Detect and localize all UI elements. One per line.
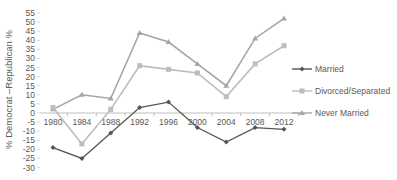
x-tick-label: 1992: [130, 117, 149, 127]
series-lines: [50, 15, 287, 161]
square-marker: [224, 94, 229, 99]
y-tick-label: -30: [23, 163, 36, 173]
square-marker: [166, 67, 171, 72]
x-tick-label: 2004: [217, 117, 236, 127]
square-marker: [137, 63, 142, 68]
square-marker: [300, 89, 305, 94]
diamond-marker: [224, 140, 229, 145]
x-tick-label: 1988: [101, 117, 120, 127]
series-never-married: [50, 15, 287, 111]
legend-label: Divorced/Separated: [315, 86, 390, 96]
triangle-marker: [281, 15, 287, 20]
triangle-marker: [137, 30, 143, 35]
x-tick-label: 1980: [44, 117, 63, 127]
chart-legend: MarriedDivorced/SeparatedNever Married: [291, 58, 390, 124]
series-married: [51, 100, 287, 161]
square-marker: [282, 43, 287, 48]
square-marker: [79, 141, 84, 146]
square-marker: [51, 105, 56, 110]
square-legend-icon: [291, 86, 313, 96]
diamond-marker: [51, 145, 56, 150]
y-axis-ticks: 5550454035302520151050-5-10-15-20-25-30: [23, 8, 40, 173]
legend-label: Married: [315, 64, 344, 74]
square-marker: [253, 61, 258, 66]
triangle-legend-icon: [291, 108, 313, 118]
diamond-marker: [282, 127, 287, 132]
diamond-legend-icon: [291, 64, 313, 74]
x-tick-label: 1984: [72, 117, 91, 127]
x-tick-label: 1996: [159, 117, 178, 127]
legend-item: Never Married: [291, 102, 390, 124]
square-marker: [108, 107, 113, 112]
diamond-marker: [300, 67, 305, 72]
x-axis-ticks: 198019841988199219962000200420082012: [44, 113, 299, 127]
line-chart: 5550454035302520151050-5-10-15-20-25-30 …: [0, 0, 300, 180]
legend-item: Married: [291, 58, 390, 80]
legend-label: Never Married: [315, 108, 369, 118]
legend-item: Divorced/Separated: [291, 80, 390, 102]
square-marker: [195, 71, 200, 76]
